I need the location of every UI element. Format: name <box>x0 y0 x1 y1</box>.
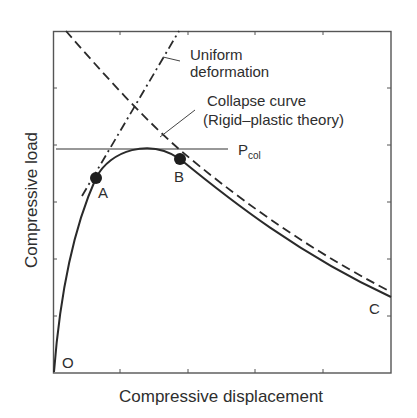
uniform-leader-line <box>163 57 180 61</box>
uniform-deformation-line <box>82 31 179 196</box>
plot-frame <box>54 32 392 374</box>
x-ticks <box>120 31 323 373</box>
load-displacement-curve <box>54 148 391 372</box>
point-b-label: B <box>174 168 184 185</box>
uniform-label-line1: Uniform <box>190 46 243 63</box>
load-displacement-diagram: Uniform deformation Collapse curve (Rigi… <box>0 0 417 418</box>
point-c-label: C <box>369 300 380 317</box>
point-b-marker <box>174 153 186 165</box>
collapse-leader-line <box>160 110 195 137</box>
collapse-label-line2: (Rigid–plastic theory) <box>203 111 344 128</box>
uniform-label-line2: deformation <box>190 63 269 80</box>
y-axis-title: Compressive load <box>22 132 41 268</box>
pcol-label: Pcol <box>238 141 261 161</box>
x-axis-title: Compressive displacement <box>119 387 323 406</box>
pcol-label-sub: col <box>248 150 261 161</box>
point-o-label: O <box>62 354 74 371</box>
collapse-label-line1: Collapse curve <box>207 92 306 109</box>
point-a-label: A <box>98 184 108 201</box>
pcol-label-main: P <box>238 141 248 158</box>
point-a-marker <box>90 172 102 184</box>
